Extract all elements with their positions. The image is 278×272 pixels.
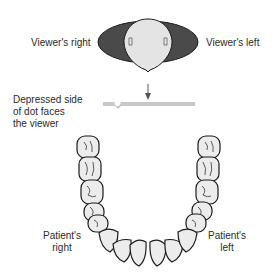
film-edge-bar (103, 102, 195, 109)
tooth (197, 157, 219, 181)
tooth (130, 240, 146, 266)
patients-right-label: Patient's right (40, 230, 84, 254)
viewers-left-label: Viewer's left (206, 37, 259, 49)
film-dot-illustration (98, 19, 198, 72)
depressed-line-2: of dot faces (13, 106, 82, 118)
down-arrow-icon (145, 84, 151, 100)
patients-left-line-1: Patient's (205, 230, 249, 242)
viewers-right-label: Viewer's right (31, 37, 91, 49)
tooth (79, 157, 101, 181)
depressed-side-label: Depressed side of dot faces the viewer (13, 94, 82, 130)
patients-right-line-2: right (40, 242, 84, 254)
tooth (81, 180, 103, 204)
patients-right-line-1: Patient's (40, 230, 84, 242)
tooth (113, 240, 131, 263)
mandibular-arch (77, 136, 220, 266)
tooth (77, 136, 99, 158)
patients-left-label: Patient's left (205, 230, 249, 254)
depressed-line-1: Depressed side (13, 94, 82, 106)
patients-left-line-2: left (205, 242, 249, 254)
raised-dot (124, 19, 172, 72)
tooth (198, 136, 220, 158)
tooth (196, 180, 218, 204)
depressed-line-3: the viewer (13, 118, 82, 130)
tooth (150, 240, 166, 266)
